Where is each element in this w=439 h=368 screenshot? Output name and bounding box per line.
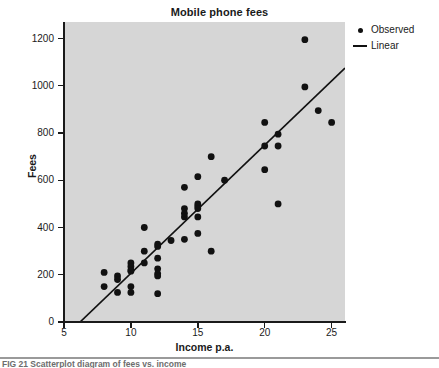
scatter-point xyxy=(168,237,175,244)
scatter-point xyxy=(194,230,201,237)
scatter-point xyxy=(101,269,108,276)
x-tick-label: 10 xyxy=(116,328,146,338)
scatter-point xyxy=(261,143,268,150)
x-tick-label: 15 xyxy=(183,328,213,338)
figure-caption: FIG 21 Scatterplot diagram of fees vs. i… xyxy=(2,360,186,368)
regression-line xyxy=(80,68,345,322)
x-axis-title: Income p.a. xyxy=(64,341,345,353)
scatter-point xyxy=(181,213,188,220)
x-tick-label: 20 xyxy=(250,328,280,338)
scatter-point xyxy=(301,36,308,43)
scatter-point xyxy=(154,273,161,280)
scatter-point xyxy=(154,243,161,250)
scatter-point xyxy=(275,143,282,150)
scatter-point xyxy=(221,177,228,184)
scatter-point xyxy=(208,248,215,255)
y-tick-label: 400 xyxy=(6,223,54,233)
plot-svg xyxy=(64,22,345,322)
y-tick-label: 1200 xyxy=(6,34,54,44)
scatter-point xyxy=(141,248,148,255)
scatter-point xyxy=(194,173,201,180)
legend-label-linear: Linear xyxy=(371,40,399,52)
legend-item-observed: Observed xyxy=(352,23,414,37)
plot-area xyxy=(64,22,345,322)
regression-line-path xyxy=(80,68,345,322)
scatter-point xyxy=(261,119,268,126)
scatter-point xyxy=(301,84,308,91)
scatter-point xyxy=(128,268,135,275)
scatter-point xyxy=(315,107,322,114)
scatter-point xyxy=(275,200,282,207)
scatter-point xyxy=(328,119,335,126)
chart-legend: Observed Linear xyxy=(352,23,414,55)
scatter-point xyxy=(194,205,201,212)
y-tick-mark xyxy=(58,38,64,39)
x-axis-line xyxy=(63,321,346,323)
x-tick-label: 5 xyxy=(49,328,79,338)
scatter-point xyxy=(101,283,108,290)
scatter-point xyxy=(128,289,135,296)
scatter-points xyxy=(101,36,335,297)
y-axis-title: Fees xyxy=(26,126,38,206)
y-tick-mark xyxy=(58,227,64,228)
legend-label-observed: Observed xyxy=(371,24,414,36)
figure-caption-strip: FIG 21 Scatterplot diagram of fees vs. i… xyxy=(0,357,439,368)
scatter-point xyxy=(154,255,161,262)
y-tick-mark xyxy=(58,180,64,181)
y-tick-label: 200 xyxy=(6,270,54,280)
scatter-point xyxy=(141,260,148,267)
scatter-point xyxy=(114,289,121,296)
figure-container: Mobile phone fees 020040060080010001200 … xyxy=(0,0,439,368)
scatter-point xyxy=(208,153,215,160)
scatter-point xyxy=(141,224,148,231)
scatter-point xyxy=(181,236,188,243)
scatter-point xyxy=(194,213,201,220)
dot-marker-icon xyxy=(352,24,368,36)
y-tick-mark xyxy=(58,85,64,86)
scatter-point xyxy=(114,276,121,283)
scatter-point xyxy=(128,283,135,290)
x-tick-label: 25 xyxy=(317,328,347,338)
line-marker-icon xyxy=(352,40,368,52)
legend-item-linear: Linear xyxy=(352,39,414,53)
y-tick-mark xyxy=(58,132,64,133)
scatter-point xyxy=(181,184,188,191)
y-tick-label: 0 xyxy=(6,317,54,327)
scatter-point xyxy=(261,166,268,173)
y-tick-label: 1000 xyxy=(6,81,54,91)
chart-title: Mobile phone fees xyxy=(0,6,439,18)
scatter-point xyxy=(154,290,161,297)
y-axis-line xyxy=(63,22,65,323)
scatter-point xyxy=(275,131,282,138)
y-tick-mark xyxy=(58,274,64,275)
